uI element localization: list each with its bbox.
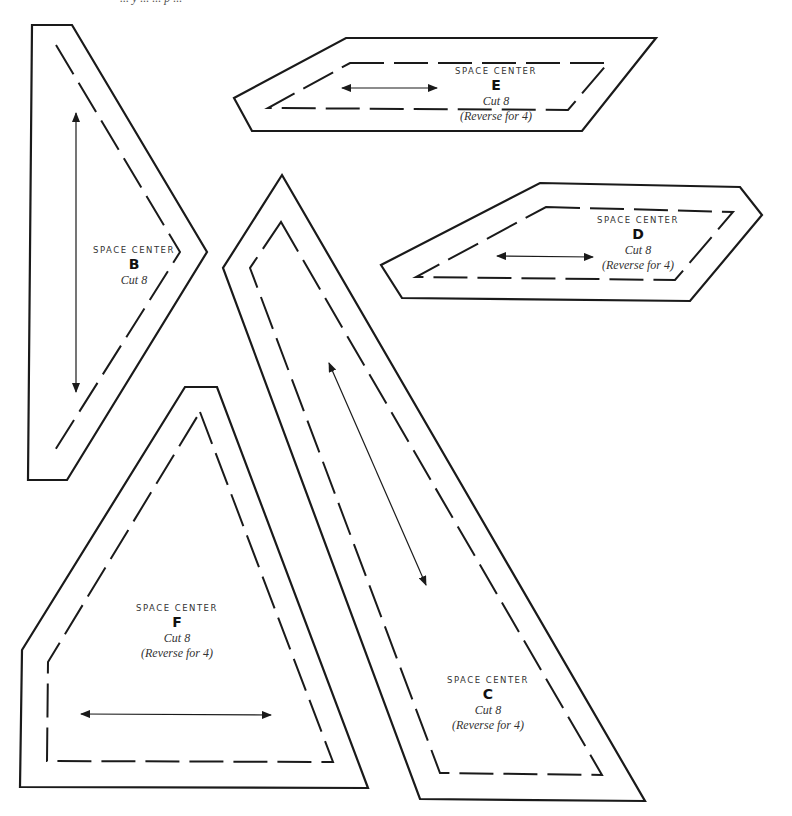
- piece-f-block-name: SPACE CENTER: [127, 604, 227, 613]
- piece-e-cutting-line: [234, 38, 656, 131]
- piece-f-reverse-note: (Reverse for 4): [127, 647, 227, 659]
- piece-d-grainline-arrow-icon: [497, 256, 593, 257]
- piece-f-grainline-arrow-icon: [81, 714, 271, 715]
- piece-c-cutting-line: [223, 175, 645, 801]
- piece-f-label: SPACE CENTER F Cut 8 (Reverse for 4): [127, 604, 227, 659]
- piece-e-block-name: SPACE CENTER: [446, 67, 546, 76]
- piece-d-reverse-note: (Reverse for 4): [588, 259, 688, 271]
- piece-b-block-name: SPACE CENTER: [88, 246, 180, 255]
- piece-e-label: SPACE CENTER E Cut 8 (Reverse for 4): [446, 67, 546, 122]
- piece-b-letter: B: [88, 257, 180, 271]
- piece-b-label: SPACE CENTER B Cut 8: [88, 246, 180, 286]
- piece-f-cutting-line: [20, 387, 368, 788]
- piece-c-seam-line: [250, 222, 602, 775]
- piece-f-letter: F: [127, 615, 227, 629]
- piece-e-letter: E: [446, 78, 546, 92]
- piece-d-label: SPACE CENTER D Cut 8 (Reverse for 4): [588, 216, 688, 271]
- piece-f-cut-count: Cut 8: [127, 632, 227, 644]
- pattern-piece-e: [234, 38, 656, 131]
- pattern-piece-d: [381, 183, 762, 301]
- piece-c-block-name: SPACE CENTER: [438, 676, 538, 685]
- piece-e-cut-count: Cut 8: [446, 95, 546, 107]
- piece-b-cut-count: Cut 8: [88, 274, 180, 286]
- piece-d-cut-count: Cut 8: [588, 244, 688, 256]
- piece-d-letter: D: [588, 227, 688, 241]
- piece-f-seam-line: [47, 412, 333, 762]
- piece-d-block-name: SPACE CENTER: [588, 216, 688, 225]
- pattern-piece-c: [223, 175, 645, 801]
- piece-c-cut-count: Cut 8: [438, 704, 538, 716]
- piece-c-letter: C: [438, 687, 538, 701]
- pattern-piece-f: [20, 387, 368, 788]
- piece-d-cutting-line: [381, 183, 762, 301]
- piece-c-label: SPACE CENTER C Cut 8 (Reverse for 4): [438, 676, 538, 731]
- piece-e-seam-line: [268, 63, 608, 110]
- piece-c-reverse-note: (Reverse for 4): [438, 719, 538, 731]
- piece-e-reverse-note: (Reverse for 4): [446, 110, 546, 122]
